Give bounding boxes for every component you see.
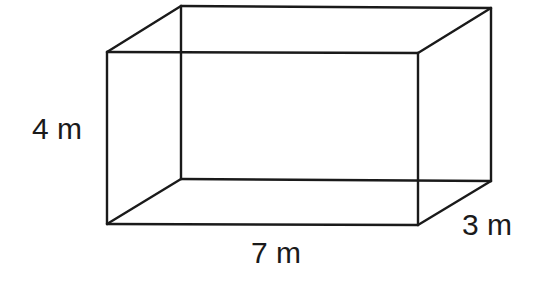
edge-back-top bbox=[181, 6, 491, 8]
edge-front-bottom bbox=[107, 224, 418, 225]
depth-edges bbox=[107, 6, 491, 225]
edge-depth-top-right bbox=[418, 8, 491, 53]
rectangular-prism-diagram: 4 m 7 m 3 m bbox=[0, 0, 545, 283]
width-label: 3 m bbox=[462, 208, 512, 241]
length-label: 7 m bbox=[251, 236, 301, 269]
front-face bbox=[107, 52, 418, 225]
height-label: 4 m bbox=[32, 112, 82, 145]
back-face bbox=[181, 6, 491, 181]
edge-back-bottom bbox=[181, 179, 491, 181]
edge-depth-bottom-left bbox=[107, 179, 181, 224]
edge-front-top bbox=[107, 52, 418, 53]
edge-depth-top-left bbox=[107, 6, 181, 52]
